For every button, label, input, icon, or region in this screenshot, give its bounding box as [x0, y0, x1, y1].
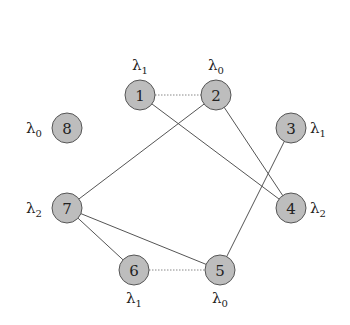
node-6: 6λ1: [119, 255, 149, 309]
lambda-label: λ1: [126, 289, 142, 309]
node-number: 2: [211, 87, 221, 105]
node-number: 6: [129, 262, 139, 280]
lambda-label: λ2: [310, 199, 326, 219]
lambda-label: λ1: [132, 56, 148, 76]
edge-2-7: [67, 95, 216, 208]
node-4: 4λ2: [276, 193, 326, 223]
node-2: 2λ0: [201, 56, 231, 110]
node-7: 7λ2: [26, 193, 82, 223]
node-5: 5λ0: [205, 255, 235, 309]
node-number: 5: [215, 262, 225, 280]
lambda-label: λ0: [212, 289, 228, 309]
node-3: 3λ1: [276, 113, 326, 143]
nodes-layer: 1λ12λ03λ14λ25λ06λ17λ28λ0: [26, 56, 326, 309]
lambda-label: λ1: [310, 119, 326, 139]
node-1: 1λ1: [125, 56, 155, 110]
lambda-label: λ2: [26, 199, 42, 219]
lambda-label: λ0: [26, 119, 42, 139]
node-number: 3: [286, 120, 296, 138]
lambda-label: λ0: [208, 56, 224, 76]
node-number: 4: [286, 200, 296, 218]
graph-diagram: 1λ12λ03λ14λ25λ06λ17λ28λ0: [0, 0, 350, 325]
node-number: 8: [62, 120, 72, 138]
edge-1-4: [140, 95, 291, 208]
node-8: 8λ0: [26, 113, 82, 143]
node-number: 7: [62, 200, 72, 218]
node-number: 1: [135, 87, 145, 105]
edges-layer: [67, 95, 291, 270]
